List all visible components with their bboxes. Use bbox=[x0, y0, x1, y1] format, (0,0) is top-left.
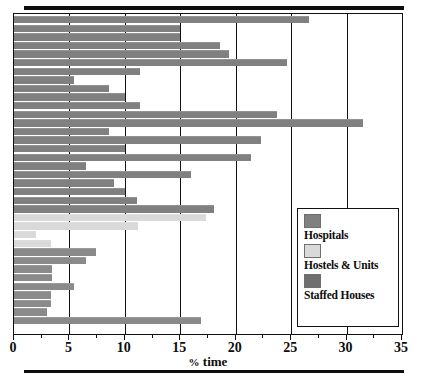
x-minor-tick bbox=[373, 335, 374, 338]
bar bbox=[14, 25, 180, 32]
x-axis: 05101520253035 bbox=[13, 335, 403, 355]
legend-box: Hospitals Hostels & Units Staffed Houses bbox=[297, 208, 399, 327]
bar bbox=[14, 291, 51, 298]
bar bbox=[14, 214, 206, 221]
x-axis-unit-word: time bbox=[203, 354, 228, 369]
legend-swatch-hostels-units bbox=[304, 244, 321, 258]
bar bbox=[14, 33, 180, 40]
bar bbox=[14, 265, 52, 272]
bar bbox=[14, 102, 140, 109]
x-minor-tick bbox=[96, 335, 97, 338]
bar bbox=[14, 93, 125, 100]
bar bbox=[14, 68, 140, 75]
x-minor-tick bbox=[207, 335, 208, 338]
bar bbox=[14, 274, 52, 281]
bar bbox=[14, 111, 277, 118]
legend-entry-hospitals: Hospitals bbox=[304, 214, 394, 241]
bar bbox=[14, 231, 36, 238]
bar bbox=[14, 162, 86, 169]
x-minor-tick bbox=[41, 335, 42, 338]
bar bbox=[14, 50, 229, 57]
bar-chart-figure: 05101520253035 % time Hospitals Hostels … bbox=[0, 0, 422, 383]
legend-label-hostels-units: Hostels & Units bbox=[304, 259, 394, 271]
bar bbox=[14, 197, 137, 204]
bar bbox=[14, 300, 51, 307]
bar bbox=[14, 59, 287, 66]
top-rule bbox=[24, 6, 404, 10]
legend-label-hospitals: Hospitals bbox=[304, 229, 394, 241]
legend-label-staffed-houses: Staffed Houses bbox=[304, 289, 394, 301]
bar bbox=[14, 119, 363, 126]
x-minor-tick bbox=[318, 335, 319, 338]
x-axis-unit-symbol: % bbox=[189, 356, 200, 368]
bar bbox=[14, 136, 261, 143]
bar bbox=[14, 145, 125, 152]
bar bbox=[14, 240, 51, 247]
bar bbox=[14, 205, 214, 212]
legend-swatch-hospitals bbox=[304, 214, 321, 228]
bar bbox=[14, 42, 220, 49]
bottom-rule bbox=[24, 370, 404, 373]
bar bbox=[14, 154, 251, 161]
x-minor-tick bbox=[262, 335, 263, 338]
bar bbox=[14, 171, 191, 178]
x-axis-label: % time bbox=[13, 354, 403, 370]
bar bbox=[14, 128, 109, 135]
bar bbox=[14, 308, 47, 315]
bar bbox=[14, 248, 96, 255]
x-minor-tick bbox=[152, 335, 153, 338]
legend-entry-hostels-units: Hostels & Units bbox=[304, 244, 394, 271]
gridline-35 bbox=[402, 14, 403, 334]
bar bbox=[14, 188, 125, 195]
bar bbox=[14, 257, 86, 264]
bar bbox=[14, 283, 74, 290]
bar bbox=[14, 222, 138, 229]
bar bbox=[14, 317, 201, 324]
bar bbox=[14, 76, 74, 83]
legend-entry-staffed-houses: Staffed Houses bbox=[304, 274, 394, 301]
bar bbox=[14, 85, 109, 92]
bar bbox=[14, 16, 309, 23]
legend-swatch-staffed-houses bbox=[304, 274, 321, 288]
bar bbox=[14, 179, 114, 186]
